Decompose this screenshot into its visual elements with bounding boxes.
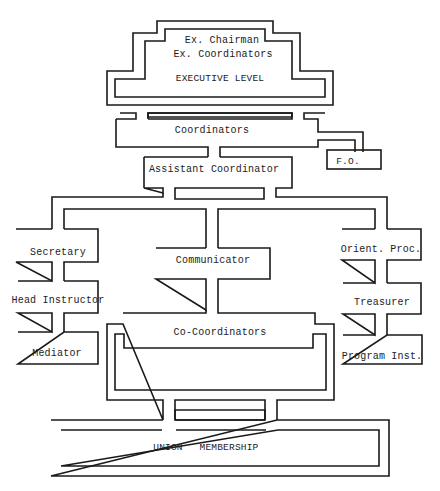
- treasurer-box: [343, 283, 421, 335]
- co-coordinators-label: Co-Coordinators: [173, 327, 266, 338]
- orient-proc-box: [342, 229, 421, 283]
- head-instructor-label: Head Instructor: [11, 295, 104, 306]
- secretary-label: Secretary: [30, 247, 86, 258]
- executive-level-label: EXECUTIVE LEVEL: [176, 73, 265, 84]
- orient-proc-label: Orient. Proc.: [341, 244, 422, 255]
- executive-chairman-label: Ex. Chairman: [185, 35, 259, 46]
- assistant-coordinator-label: Assistant Coordinator: [149, 164, 279, 175]
- coordinators-box: [116, 117, 363, 157]
- mediator-label: Mediator: [32, 348, 82, 359]
- program-inst-label: Program Inst.: [342, 351, 423, 362]
- coordinators-label: Coordinators: [175, 125, 249, 136]
- membership-label: MEMBERSHIP: [199, 442, 258, 453]
- executive-coordinators-label: Ex. Coordinators: [173, 49, 272, 60]
- head-instructor-box: [18, 281, 98, 332]
- assistant-coordinator-box: [144, 157, 292, 193]
- fo-label: F.O.: [336, 156, 360, 167]
- union-label: UNION: [153, 442, 183, 453]
- communicator-label: Communicator: [176, 255, 250, 266]
- treasurer-label: Treasurer: [354, 297, 410, 308]
